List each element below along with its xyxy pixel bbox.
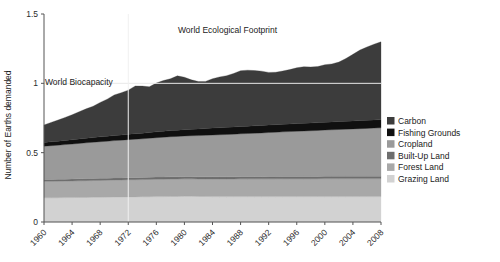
chart-canvas: 00.511.5 1960196419681972197619801984198… bbox=[0, 0, 500, 262]
annotation-world-biocapacity: World Biocapacity bbox=[45, 77, 114, 87]
legend-swatch-grazing-land bbox=[387, 175, 395, 183]
y-tick-label: 0 bbox=[33, 217, 38, 227]
legend-swatch-forest-land bbox=[387, 163, 395, 171]
y-tick-label: 0.5 bbox=[26, 148, 38, 158]
y-tick-label: 1.5 bbox=[26, 9, 38, 19]
legend-swatch-cropland bbox=[387, 140, 395, 148]
legend-swatch-fishing-grounds bbox=[387, 129, 395, 137]
annotation-world-ecological-footprint: World Ecological Footprint bbox=[178, 25, 278, 35]
legend-label-carbon: Carbon bbox=[398, 116, 426, 126]
legend-swatch-carbon bbox=[387, 117, 395, 125]
legend-label-built-up-land: Built-Up Land bbox=[398, 151, 450, 161]
legend-label-forest-land: Forest Land bbox=[398, 162, 444, 172]
ecological-footprint-chart: 00.511.5 1960196419681972197619801984198… bbox=[0, 0, 500, 262]
legend-swatch-built-up-land bbox=[387, 152, 395, 160]
legend-label-fishing-grounds: Fishing Grounds bbox=[398, 128, 460, 138]
area-grazing-land bbox=[44, 196, 381, 222]
legend-label-grazing-land: Grazing Land bbox=[398, 174, 449, 184]
area-forest-land bbox=[44, 179, 381, 198]
y-axis-title: Number of Earths demanded bbox=[3, 70, 13, 179]
legend-label-cropland: Cropland bbox=[398, 139, 433, 149]
y-axis-title-group: Number of Earths demanded bbox=[3, 70, 13, 179]
y-tick-label: 1 bbox=[33, 78, 38, 88]
